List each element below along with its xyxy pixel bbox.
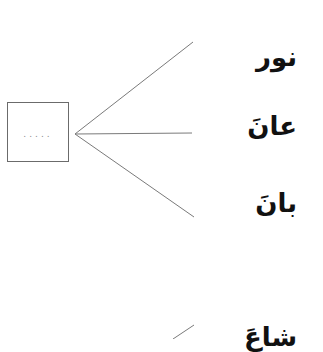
word-nur: نور — [256, 42, 297, 72]
connector-line-1 — [75, 42, 193, 134]
word-baana: بانَ — [255, 188, 297, 218]
answer-box[interactable]: ..... — [7, 102, 69, 162]
word-shaaa: شاعَ — [244, 322, 297, 352]
connector-line-2 — [75, 133, 192, 134]
connector-line-3 — [75, 134, 194, 217]
answer-placeholder-dots: ..... — [8, 130, 68, 139]
connector-line-4 — [173, 325, 194, 339]
word-aana: عانَ — [247, 111, 297, 141]
